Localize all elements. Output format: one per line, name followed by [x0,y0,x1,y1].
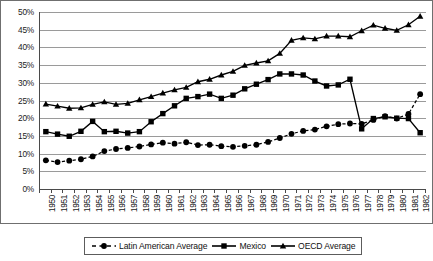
data-point [336,82,341,87]
data-point [242,86,247,91]
x-tick-mark [156,189,157,193]
data-point [289,131,295,137]
data-point [78,129,83,134]
series-layer [40,12,426,189]
data-point [183,139,189,145]
x-tick-mark [308,189,309,193]
data-point [265,58,271,64]
data-point [78,156,84,162]
x-tick-mark [320,189,321,193]
data-point [219,96,224,101]
chart-screenshot: 0%5%10%15%20%25%30%35%40%45%50% 19501951… [0,0,433,261]
data-point [43,101,49,107]
x-tick-label-1951: 1951 [60,195,69,212]
data-point [265,77,270,82]
x-tick-mark [226,189,227,193]
data-point [137,144,143,150]
x-tick-label-1977: 1977 [364,195,373,212]
x-tick-mark [250,189,251,193]
circle-marker-icon [91,240,117,252]
x-tick-mark [144,189,145,193]
data-point [113,129,118,134]
y-tick-label-5: 5% [22,166,34,176]
data-point [230,144,236,150]
x-tick-label-1978: 1978 [376,195,385,212]
data-point [148,119,153,124]
x-axis: 1950195119521953195419551956195719581959… [39,189,425,229]
x-tick-mark [214,189,215,193]
x-tick-label-1965: 1965 [224,195,233,212]
x-tick-mark [203,189,204,193]
data-point [67,134,72,139]
y-tick-label-25: 25% [18,96,34,106]
data-point [43,129,48,134]
x-tick-label-1950: 1950 [48,195,57,212]
data-point [277,135,283,141]
x-tick-label-1954: 1954 [95,195,104,212]
data-point [300,128,306,134]
x-tick-label-1964: 1964 [212,195,221,212]
data-point [207,142,213,148]
x-tick-label-1980: 1980 [399,195,408,212]
data-point [253,142,259,148]
y-tick-label-0: 0% [22,184,34,194]
data-point [312,78,317,83]
x-tick-mark [62,189,63,193]
x-tick-label-1960: 1960 [165,195,174,212]
x-tick-mark [378,189,379,193]
data-point [265,139,271,145]
data-point [195,142,201,148]
data-point [102,129,107,134]
data-point [184,96,189,101]
legend-item-mexico[interactable]: Mexico [211,240,266,252]
x-tick-label-1966: 1966 [235,195,244,212]
data-point [160,140,166,146]
data-point [195,94,200,99]
data-point [101,148,107,154]
data-point [43,157,49,163]
x-tick-label-1963: 1963 [200,195,209,212]
x-tick-mark [425,189,426,193]
data-point [347,121,353,127]
x-tick-mark [109,189,110,193]
x-tick-mark [343,189,344,193]
data-point [90,154,96,160]
chart-frame: 0%5%10%15%20%25%30%35%40%45%50% 19501951… [0,0,433,224]
data-point [394,116,399,121]
x-tick-label-1953: 1953 [83,195,92,212]
x-tick-mark [179,189,180,193]
data-point [148,141,154,147]
data-point [101,99,107,105]
x-tick-label-1981: 1981 [411,195,420,212]
y-tick-label-35: 35% [18,60,34,70]
x-tick-label-1973: 1973 [317,195,326,212]
data-point [335,121,341,127]
data-point [300,72,305,77]
data-point [90,119,95,124]
data-point [113,146,119,152]
x-tick-mark [273,189,274,193]
y-tick-label-30: 30% [18,78,34,88]
x-tick-label-1968: 1968 [259,195,268,212]
data-point [417,91,423,97]
x-tick-mark [168,189,169,193]
data-point [289,71,294,76]
x-tick-label-1959: 1959 [153,195,162,212]
y-axis-tick-labels: 0%5%10%15%20%25%30%35%40%45%50% [1,12,37,189]
data-point [324,123,330,129]
legend-item-oecd-average[interactable]: OECD Average [270,240,355,252]
y-tick-label-40: 40% [18,42,34,52]
chart-legend: Latin American AverageMexicoOECD Average [84,237,362,255]
x-tick-mark [39,189,40,193]
plot-area [39,12,426,190]
x-tick-mark [367,189,368,193]
x-tick-label-1967: 1967 [247,195,256,212]
data-point [55,159,61,165]
legend-item-latin-american-average[interactable]: Latin American Average [91,240,207,252]
x-tick-label-1969: 1969 [270,195,279,212]
x-tick-label-1974: 1974 [329,195,338,212]
x-tick-label-1982: 1982 [422,195,431,212]
legend-label: Latin American Average [119,241,207,251]
x-tick-label-1976: 1976 [352,195,361,212]
data-point [172,141,178,147]
